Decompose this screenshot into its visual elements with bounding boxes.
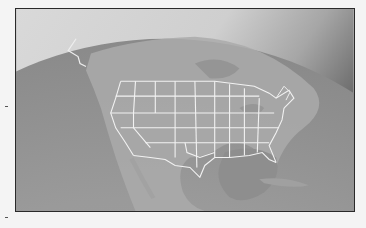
globe-map: [16, 9, 354, 211]
edge-mark-top: [5, 106, 8, 107]
globe-image-frame: [15, 8, 355, 212]
edge-mark-bottom: [5, 217, 8, 218]
